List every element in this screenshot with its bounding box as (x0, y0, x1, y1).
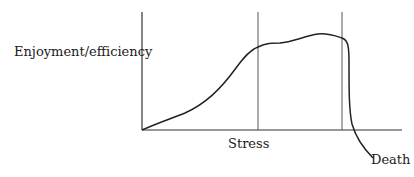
y-axis-label: Enjoyment/efficiency (14, 44, 152, 59)
death-annotation: Death (371, 152, 410, 167)
stress-curve-diagram (0, 0, 414, 177)
x-axis-label: Stress (228, 136, 269, 151)
